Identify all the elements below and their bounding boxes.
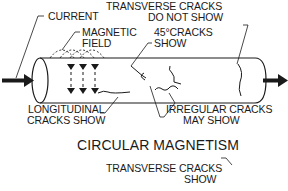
circular-magnetism-diagram: CURRENT MAGNETIC FIELD TRANSVERSE CRACKS… xyxy=(0,0,288,191)
diagram-title: CIRCULAR MAGNETISM xyxy=(77,137,239,153)
label-45-cracks-2: SHOW xyxy=(154,38,186,49)
label-transverse-show-2: SHOW xyxy=(184,174,216,185)
crack-marks xyxy=(98,64,242,96)
label-transverse-no-show-2: DO NOT SHOW xyxy=(148,12,223,23)
current-arrow-in xyxy=(2,74,34,87)
label-magnetic-field-2: FIELD xyxy=(82,38,111,49)
current-arrow-out xyxy=(263,74,288,87)
magnetic-field-arcs xyxy=(50,50,104,58)
label-current: CURRENT xyxy=(48,11,99,22)
cylinder-end-left xyxy=(32,58,48,103)
label-irregular-2: MAY SHOW xyxy=(183,115,240,126)
label-longitudinal-2: CRACKS SHOW xyxy=(27,115,105,126)
